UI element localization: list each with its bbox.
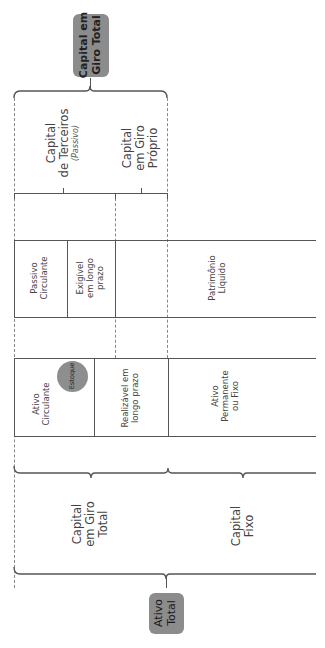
badge-line: Total [165, 600, 178, 626]
bottom-brace [0, 0, 325, 648]
bottom-badge-connector [166, 578, 167, 588]
badge-line: Ativo [152, 599, 165, 627]
ativo-total-badge-label: Ativo Total [153, 599, 178, 627]
